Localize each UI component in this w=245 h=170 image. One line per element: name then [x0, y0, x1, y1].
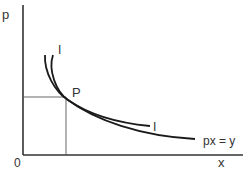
indifference-label-top: I — [58, 43, 61, 57]
indifference-label-right: I — [153, 120, 156, 134]
x-axis-label: x — [218, 155, 225, 170]
point-p-label: P — [72, 85, 81, 100]
origin-label: 0 — [14, 156, 21, 170]
indifference-diagram: p x 0 I I P px = y — [0, 0, 245, 170]
y-axis-label: p — [2, 7, 9, 22]
budget-curve-label: px = y — [203, 134, 235, 148]
budget-curve — [45, 55, 195, 139]
